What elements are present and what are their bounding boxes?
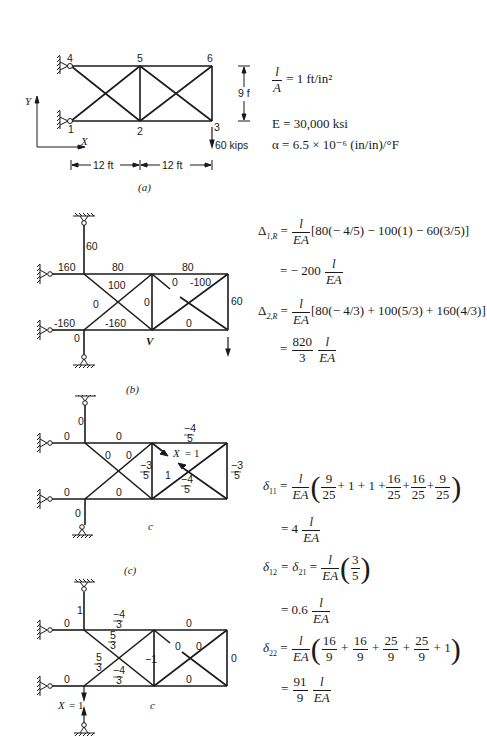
svg-text:0: 0 (172, 276, 178, 288)
svg-text:5: 5 (184, 483, 190, 495)
svg-text:0: 0 (78, 415, 84, 427)
truss-diagram-c2: 1 0 0 −1 0 0 0 0 0 −4 3 5 3 5 3 −4 3 X =… (0, 578, 250, 749)
svg-text:3: 3 (116, 674, 122, 686)
svg-text:0: 0 (75, 507, 81, 519)
x1-label: X (172, 447, 181, 459)
svg-text:0: 0 (186, 317, 192, 329)
svg-text:0: 0 (64, 486, 70, 498)
truss-diagram-c1: 0 0 0 0 0 0 0 0 1 −4 5 −3 5 −4 5 −3 5 X … (0, 395, 250, 555)
eq-delta-11-result: = 4 lEA (281, 515, 321, 546)
svg-text:3: 3 (110, 639, 116, 651)
caption-c: (c) (124, 564, 136, 576)
svg-text:1: 1 (77, 604, 83, 616)
eq-delta-22: δ22 = lEA(169 + 169 + 259 + 259 + 1) (263, 634, 461, 665)
span-label-1: 12 ft (93, 159, 114, 171)
c2-label: c (150, 699, 155, 711)
svg-text:100: 100 (108, 279, 126, 291)
svg-text:3: 3 (116, 618, 122, 630)
node-2: 2 (137, 125, 143, 137)
svg-text:0: 0 (175, 640, 181, 652)
svg-text:-160: -160 (54, 317, 75, 329)
svg-text:5: 5 (187, 432, 193, 444)
prop-e: E = 30,000 ksi (272, 117, 348, 130)
svg-text:5: 5 (234, 469, 240, 481)
height-label: 9 ft (238, 87, 250, 99)
axis-x-label: X (80, 135, 89, 147)
node-1: 1 (68, 123, 74, 135)
node-4: 4 (67, 52, 73, 64)
svg-text:60: 60 (231, 345, 243, 346)
eq-delta-12: δ12 = δ21 = lEA(35) (263, 553, 371, 584)
x2-label: X (57, 699, 66, 711)
svg-text:80: 80 (182, 261, 194, 273)
svg-text:0: 0 (105, 449, 111, 461)
svg-text:−1: −1 (145, 653, 157, 665)
truss-diagram-b-lower: 60 (0, 345, 250, 377)
svg-text:0: 0 (144, 296, 150, 308)
svg-text:5: 5 (143, 469, 149, 481)
svg-text:= 1: = 1 (185, 447, 199, 459)
svg-text:0: 0 (64, 617, 70, 629)
eq-delta-1R-result: = − 200 lEA (280, 257, 344, 288)
truss-diagram-a: 4 5 6 1 2 3 Y X 60 kips 9 ft (0, 0, 250, 180)
prop-alpha: α = 6.5 × 10⁻⁶ (in/in)/°F (272, 138, 399, 151)
c1-label: c (148, 520, 153, 532)
svg-text:0: 0 (93, 298, 99, 310)
svg-text:0: 0 (116, 430, 122, 442)
eq-delta-12-result: = 0.6 lEA (281, 596, 331, 627)
node-3: 3 (214, 121, 220, 133)
svg-text:60: 60 (231, 295, 243, 307)
svg-text:0: 0 (64, 430, 70, 442)
svg-text:3: 3 (96, 661, 102, 673)
span-label-2: 12 ft (162, 159, 183, 171)
svg-text:1: 1 (165, 469, 171, 481)
eq-delta-1R: Δ1,R = lEA[80(− 4/5) − 100(1) − 60(3/5)] (258, 217, 469, 248)
truss-diagram-b: 60 160 80 80 100 0 0 0 -100 60 -160 -160… (0, 195, 250, 345)
svg-text:160: 160 (58, 261, 76, 273)
svg-text:-160: -160 (105, 317, 126, 329)
prop-l-over-a: lA = 1 ft/in² (271, 65, 332, 96)
svg-text:80: 80 (112, 261, 124, 273)
eq-delta-22-result: = 919 lEA (281, 675, 332, 706)
svg-text:0: 0 (126, 449, 132, 461)
node-6: 6 (207, 52, 213, 64)
caption-b: (b) (126, 383, 139, 395)
svg-text:0: 0 (186, 673, 192, 685)
caption-a: (a) (138, 181, 151, 193)
svg-text:0: 0 (74, 332, 80, 344)
eq-delta-2R: Δ2,R = lEA[80(− 4/3) + 100(5/3) + 160(4/… (258, 297, 486, 328)
vr-label: V (146, 335, 155, 345)
eq-delta-2R-result: = 8203 lEA (280, 335, 337, 366)
svg-text:0: 0 (186, 617, 192, 629)
svg-text:0: 0 (196, 640, 202, 652)
load-label: 60 kips (215, 139, 248, 151)
eq-delta-11: δ11 = lEA(925+ 1 + 1 +1625+1625+925) (263, 472, 461, 503)
svg-text:= 1: = 1 (69, 699, 83, 711)
axis-y-label: Y (25, 95, 33, 107)
svg-text:0: 0 (116, 486, 122, 498)
svg-text:-100: -100 (190, 276, 211, 288)
svg-text:60: 60 (86, 240, 98, 252)
svg-text:0: 0 (231, 652, 237, 664)
svg-text:0: 0 (64, 673, 70, 685)
node-5: 5 (137, 52, 143, 64)
